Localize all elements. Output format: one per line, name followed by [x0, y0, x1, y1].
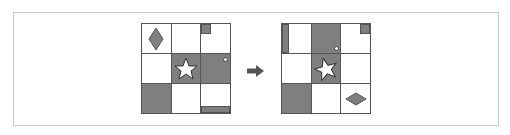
cell-r1-c2	[200, 53, 231, 84]
grid-before	[141, 23, 230, 114]
cell-r0-c0	[141, 23, 172, 54]
diamond-icon	[341, 84, 371, 114]
cell-r0-c2	[200, 23, 231, 54]
cell-r2-c1	[311, 83, 341, 114]
cell-r0-c1	[171, 23, 201, 54]
diamond-icon	[142, 24, 172, 54]
cell-r0-c2	[340, 23, 371, 54]
cell-r1-c0	[141, 53, 172, 84]
right-arrow-icon	[247, 65, 265, 77]
cell-r1-c1	[171, 53, 201, 84]
grid-after	[281, 23, 370, 114]
cell-r2-c2	[340, 83, 371, 114]
small-square-icon	[201, 24, 211, 34]
cell-r0-c0	[281, 23, 312, 54]
cell-r2-c2	[200, 83, 231, 114]
star-icon	[172, 54, 201, 84]
small-circle-icon	[223, 57, 228, 62]
small-square-icon	[360, 24, 370, 34]
cell-r2-c0	[141, 83, 172, 114]
star-icon	[312, 54, 341, 84]
small-circle-icon	[334, 46, 339, 51]
cell-r1-c0	[281, 53, 312, 84]
cell-r1-c1	[311, 53, 341, 84]
cell-r2-c0	[281, 83, 312, 114]
left-bar-icon	[282, 24, 289, 53]
bottom-bar-icon	[201, 106, 230, 113]
cell-r1-c2	[340, 53, 371, 84]
cell-r2-c1	[171, 83, 201, 114]
cell-r0-c1	[311, 23, 341, 54]
